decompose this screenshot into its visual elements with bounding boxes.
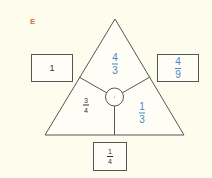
denominator: 9 bbox=[175, 70, 181, 80]
answer-box-right[interactable]: 4 9 bbox=[157, 54, 199, 82]
numerator: 3 bbox=[84, 97, 88, 104]
box-fraction: 1 4 bbox=[107, 148, 113, 165]
answer-box-bottom[interactable]: 1 4 bbox=[93, 142, 127, 171]
puzzle-label: E bbox=[30, 17, 35, 26]
numerator: 4 bbox=[175, 57, 181, 67]
region-top-fraction: 4 3 bbox=[112, 53, 118, 76]
box-value: 1 bbox=[49, 63, 54, 73]
box-fraction: 4 9 bbox=[175, 57, 181, 80]
region-bottom-right-fraction: 1 3 bbox=[139, 102, 145, 125]
answer-box-left[interactable]: 1 bbox=[31, 54, 73, 82]
fraction-bar bbox=[83, 105, 89, 106]
fraction-bar bbox=[107, 156, 113, 157]
denominator: 3 bbox=[112, 66, 118, 76]
numerator: 1 bbox=[108, 148, 112, 155]
denominator: 3 bbox=[139, 115, 145, 125]
fraction-triangle-puzzle: E 4 3 3 4 1 3 1 4 9 1 4 bbox=[0, 0, 212, 178]
region-bottom-left-fraction: 3 4 bbox=[83, 97, 89, 114]
numerator: 4 bbox=[112, 53, 118, 63]
numerator: 1 bbox=[139, 102, 145, 112]
denominator: 4 bbox=[84, 107, 88, 114]
denominator: 4 bbox=[108, 158, 112, 165]
center-dot bbox=[114, 96, 115, 97]
